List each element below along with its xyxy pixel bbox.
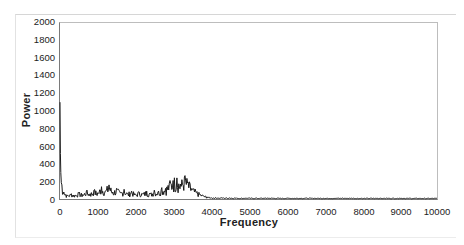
x-tick: 6000: [277, 206, 298, 217]
x-tick: 3000: [163, 206, 184, 217]
x-tick: 1000: [87, 206, 108, 217]
x-tick: 7000: [315, 206, 336, 217]
x-tick: 8000: [353, 206, 374, 217]
x-tick: 9000: [390, 206, 411, 217]
x-tick: 0: [57, 206, 62, 217]
x-tick: 10000: [424, 206, 450, 217]
x-tick: 2000: [125, 206, 146, 217]
x-axis-label: Frequency: [220, 216, 278, 228]
